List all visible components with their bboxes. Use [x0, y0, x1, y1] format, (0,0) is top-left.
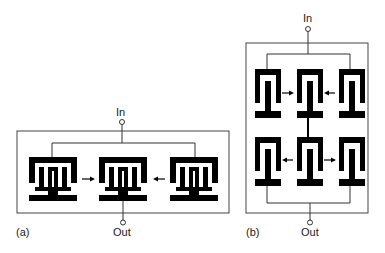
panel-a-output-label: Out [113, 227, 131, 238]
input-bus-line [267, 54, 350, 70]
resonator-bottom-center [297, 137, 323, 186]
resonator-center [99, 157, 147, 201]
panel-b-label: (b) [246, 227, 259, 238]
panel-a-label: (a) [16, 227, 29, 238]
arrow-right-icon [331, 158, 336, 163]
resonator-top-center [297, 69, 323, 118]
panel-b-input-label: In [303, 13, 312, 24]
arrow-right-icon [289, 91, 294, 96]
output-terminal-icon [308, 220, 313, 225]
resonator-top-right [339, 69, 365, 118]
output-bus-line [267, 186, 350, 203]
input-terminal-icon [306, 27, 311, 32]
resonator-figure [0, 0, 385, 253]
input-bus-line [52, 143, 195, 158]
resonator-right [170, 157, 218, 201]
panel-a-input-label: In [116, 107, 125, 118]
arrow-left-icon [324, 91, 329, 96]
arrow-right-icon [90, 177, 95, 182]
resonator-bottom-right [339, 137, 365, 186]
resonator-top-left [255, 69, 281, 118]
resonator-bottom-left [255, 137, 281, 186]
input-terminal-icon [120, 120, 125, 125]
panel-a [17, 120, 229, 226]
panel-b-output-label: Out [301, 227, 319, 238]
arrow-left-icon [282, 158, 287, 163]
resonator-left [29, 157, 77, 201]
panel-b [246, 27, 368, 226]
arrow-left-icon [153, 177, 158, 182]
output-terminal-icon [121, 220, 126, 225]
